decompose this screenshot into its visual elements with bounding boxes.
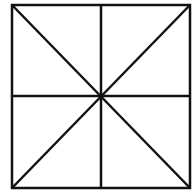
- square-diagram: [0, 0, 195, 195]
